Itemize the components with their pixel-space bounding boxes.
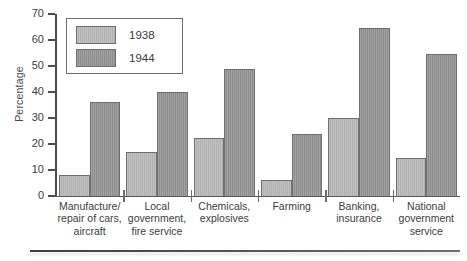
bar-1944-3 bbox=[292, 134, 323, 196]
y-tick-20 bbox=[48, 143, 55, 144]
category-label-4: Banking, insurance bbox=[321, 200, 396, 225]
category-label-1: Local government, fire service bbox=[119, 200, 194, 237]
bar-1938-5 bbox=[396, 158, 427, 196]
bar-1944-0 bbox=[90, 102, 121, 196]
bar-1938-4 bbox=[328, 118, 359, 196]
bar-1938-1 bbox=[126, 152, 157, 196]
legend-label-1944: 1944 bbox=[129, 52, 155, 64]
y-tick-label-60: 60 bbox=[14, 33, 44, 45]
legend-swatch-1944 bbox=[76, 49, 116, 67]
y-tick-label-30: 30 bbox=[14, 111, 44, 123]
y-tick-label-70: 70 bbox=[14, 7, 44, 19]
category-label-0: Manufacture/ repair of cars, aircraft bbox=[52, 200, 127, 237]
legend-swatch-1938 bbox=[76, 26, 116, 44]
y-tick-30 bbox=[48, 117, 55, 118]
category-label-2: Chemicals, explosives bbox=[187, 200, 262, 225]
bar-1938-3 bbox=[261, 180, 292, 196]
y-tick-10 bbox=[48, 169, 55, 170]
y-tick-label-50: 50 bbox=[14, 59, 44, 71]
y-tick-label-20: 20 bbox=[14, 137, 44, 149]
bar-1944-2 bbox=[224, 69, 255, 196]
chart-legend: 1938 1944 bbox=[66, 18, 183, 74]
footer-rule-shadow bbox=[30, 253, 460, 255]
bar-1938-0 bbox=[59, 175, 90, 196]
y-tick-70 bbox=[48, 13, 55, 14]
bar-1944-1 bbox=[157, 92, 188, 196]
bar-1944-5 bbox=[426, 54, 457, 196]
category-label-3: Farming bbox=[254, 200, 329, 212]
y-tick-label-10: 10 bbox=[14, 163, 44, 175]
y-tick-label-40: 40 bbox=[14, 85, 44, 97]
y-tick-60 bbox=[48, 39, 55, 40]
category-label-5: National government service bbox=[389, 200, 464, 237]
y-tick-40 bbox=[48, 91, 55, 92]
legend-item-1938: 1938 bbox=[76, 26, 155, 44]
y-tick-label-0: 0 bbox=[14, 189, 44, 201]
bar-1938-2 bbox=[194, 138, 225, 197]
legend-item-1944: 1944 bbox=[76, 49, 155, 67]
y-tick-50 bbox=[48, 65, 55, 66]
footer-rule bbox=[30, 250, 460, 252]
bar-chart: Percentage 706050403020100 Manufacture/ … bbox=[0, 0, 467, 261]
bar-1944-4 bbox=[359, 28, 390, 196]
legend-label-1938: 1938 bbox=[129, 29, 155, 41]
y-tick-0 bbox=[48, 195, 55, 196]
